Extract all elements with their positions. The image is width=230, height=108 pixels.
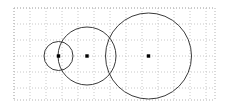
center-dots-layer: [57, 54, 150, 57]
medium-circle-center: [85, 54, 88, 57]
circles-layer: [44, 13, 192, 99]
large-circle-center: [147, 54, 150, 57]
small-circle-center: [57, 54, 60, 57]
figure-canvas: [0, 0, 230, 108]
circles-diagram: [0, 0, 230, 108]
